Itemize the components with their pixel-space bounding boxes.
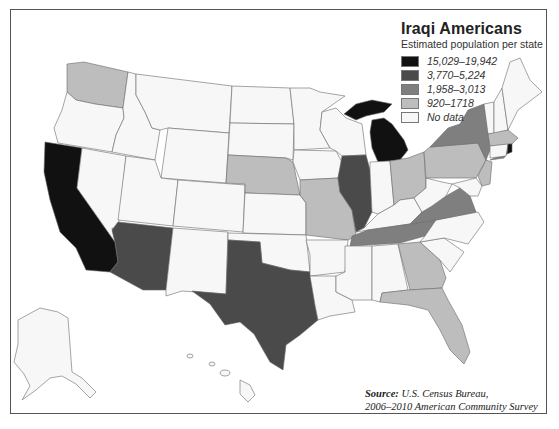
state-north-dakota [230,86,294,124]
legend-item: 15,029–19,942 [401,54,543,68]
legend-label: 15,029–19,942 [427,55,497,67]
state-florida [380,288,470,364]
state-iowa [293,150,342,180]
legend-swatch [401,98,419,109]
legend-label: 1,958–3,013 [427,83,485,95]
source-line-1: U.S. Census Bureau, [401,388,488,399]
state-michigan-upper [344,100,392,120]
state-montana [136,74,232,133]
legend-subtitle: Estimated population per state [401,38,543,51]
legend-swatch [401,112,419,123]
legend-item: 920–1718 [401,96,543,110]
legend-item: No data [401,110,543,124]
state-colorado [173,180,245,232]
state-arkansas [306,240,348,276]
state-connecticut [490,144,508,158]
state-wyoming [161,128,229,183]
source-note: Source: U.S. Census Bureau, 2006–2010 Am… [365,387,538,413]
state-hawaii [187,354,255,402]
legend-label: 3,770–5,224 [427,69,485,81]
legend-swatch [401,56,419,67]
state-rhode-island [507,144,512,154]
state-alaska [14,308,96,400]
map-legend: Iraqi Americans Estimated population per… [401,20,543,124]
legend-swatch [401,70,419,81]
legend-label: No data [427,111,464,123]
legend-swatch [401,84,419,95]
legend-item: 3,770–5,224 [401,68,543,82]
legend-item: 1,958–3,013 [401,82,543,96]
legend-title: Iraqi Americans [401,20,543,38]
source-line-2: 2006–2010 American Community Survey [365,400,538,413]
state-arizona [110,222,173,290]
state-new-mexico [166,228,228,296]
state-kansas [243,193,306,235]
state-michigan-lower [370,118,408,162]
state-pennsylvania [424,143,486,178]
source-label: Source: [365,388,399,399]
legend-label: 920–1718 [427,97,474,109]
state-south-dakota [228,123,294,160]
state-indiana [370,161,394,214]
